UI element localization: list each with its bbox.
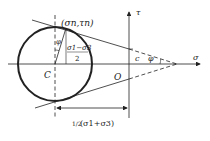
origin-label: O	[114, 72, 122, 82]
tau-axis-label: τ	[136, 8, 141, 17]
failure-envelope-lower-extension	[129, 64, 177, 79]
center-angle-arc	[55, 50, 59, 51]
mohr-coulomb-diagram: (σn,τn) τ σ C O c φ φ σ1−σ3 2 1/2 (σ1+σ3…	[0, 0, 210, 141]
friction-angle-label: φ	[148, 54, 154, 63]
cohesion-label: c	[135, 54, 140, 63]
friction-angle-arc	[160, 59, 161, 64]
center-label: C	[44, 70, 51, 80]
radius-line	[55, 28, 66, 64]
center-angle-label: φ	[56, 38, 61, 46]
failure-envelope-lower	[35, 79, 129, 108]
sigma-axis-label: σ	[193, 53, 199, 62]
radius-denominator: 2	[75, 55, 79, 63]
tangent-point-label: (σn,τn)	[61, 18, 94, 28]
radius-numerator: σ1−σ3	[67, 44, 92, 52]
center-distance-expression: (σ1+σ3)	[80, 119, 114, 128]
